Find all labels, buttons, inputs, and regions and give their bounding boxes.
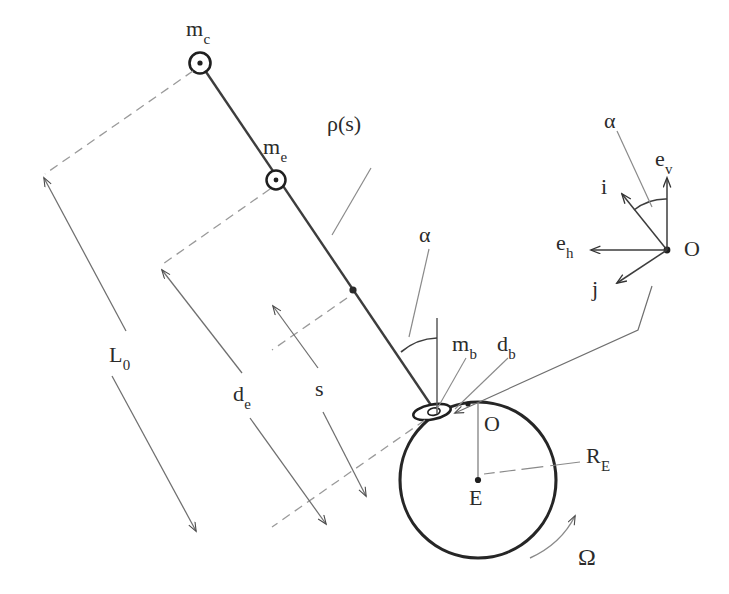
label-mass-end: me	[263, 136, 287, 162]
earth-center-dot	[475, 477, 481, 483]
tether-angle-leader	[409, 249, 429, 337]
unit-vector-i	[622, 194, 667, 250]
extension-line-s	[272, 298, 347, 350]
label-density: ρ(s)	[327, 113, 361, 135]
label-earth-radius: RE	[586, 445, 610, 471]
earth-radius-leader	[484, 462, 580, 474]
dimension-s-upper	[273, 306, 318, 368]
mass-climber-marker-dot	[197, 60, 202, 65]
extension-line-mid	[160, 189, 270, 266]
label-distance-end: de	[233, 383, 251, 409]
frame-angle-leader	[617, 131, 652, 207]
label-mass-climber: mc	[186, 18, 210, 44]
label-length-total: L0	[109, 344, 130, 370]
label-distance-base: db	[497, 333, 515, 359]
diagram-vector-layer	[0, 0, 729, 594]
unit-vector-j	[617, 250, 667, 283]
mass-base-body	[412, 401, 452, 423]
extension-line-top	[45, 71, 193, 174]
dimension-de-upper	[162, 270, 242, 373]
label-earth-rotation: Ω	[578, 545, 596, 569]
label-unit-j: j	[592, 278, 598, 300]
density-leader	[332, 168, 371, 235]
tether-diagram: mc me ρ(s) L0 de s α mb db O E RE Ω α ev	[0, 0, 729, 594]
dimension-L0-lower	[112, 376, 196, 531]
label-unit-horizontal: eh	[556, 232, 573, 258]
label-unit-i: i	[601, 176, 607, 198]
dimension-L0-upper	[44, 178, 126, 331]
label-angle-tether: α	[419, 224, 431, 246]
label-angle-frame: α	[604, 110, 616, 132]
tether-angle-arc	[401, 338, 437, 352]
dimension-de-lower	[250, 418, 326, 524]
tether-line	[200, 63, 437, 414]
mass-end-marker-dot	[274, 178, 279, 183]
dimension-s-lower	[323, 412, 366, 496]
label-mass-base: mb	[452, 333, 477, 359]
extension-line-base	[272, 420, 425, 527]
frame-origin-leader	[455, 286, 652, 413]
earth-rotation-arrow	[530, 516, 575, 558]
label-origin-surface: O	[484, 413, 500, 435]
label-arc-coordinate: s	[315, 378, 324, 400]
label-earth-center: E	[469, 487, 482, 509]
arc-coordinate-point	[349, 286, 356, 293]
mass-base-leader	[437, 358, 466, 409]
label-unit-vertical: ev	[655, 148, 672, 174]
label-origin-frame: O	[684, 238, 700, 260]
